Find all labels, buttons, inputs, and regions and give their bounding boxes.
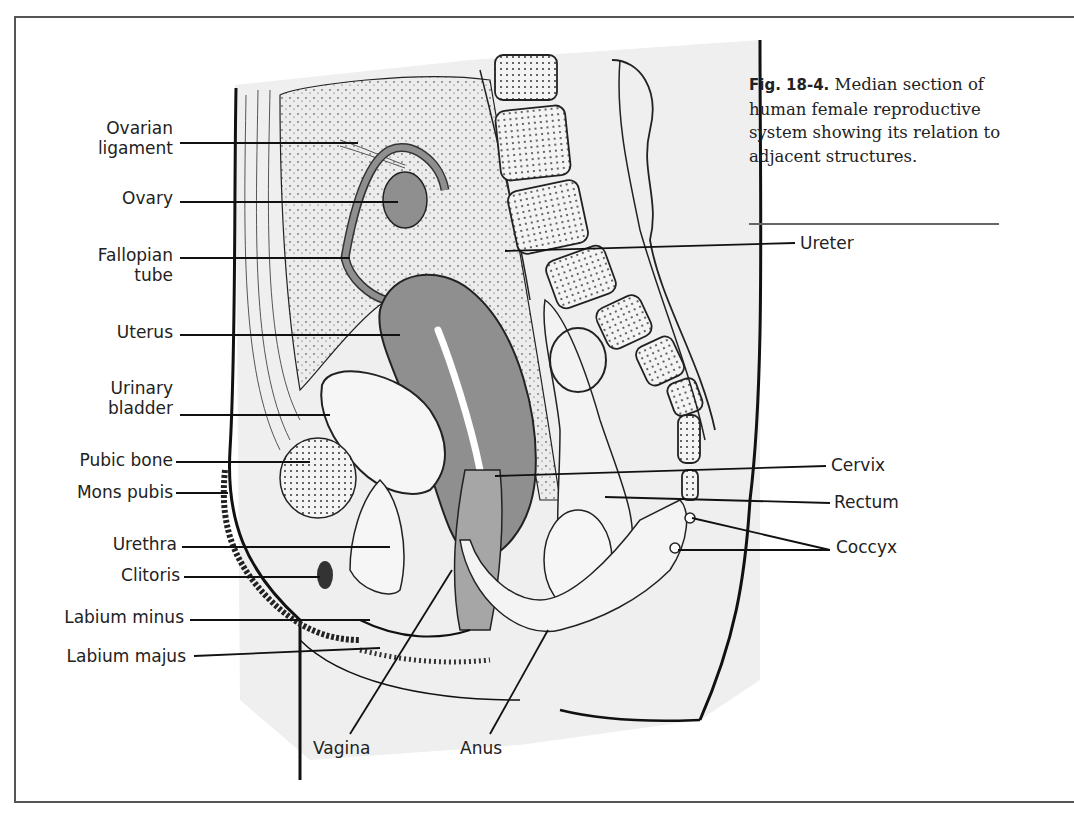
ovary-shape [383, 172, 427, 228]
label-clitoris: Clitoris [40, 565, 180, 585]
label-urethra: Urethra [40, 534, 177, 554]
label-labium-minus: Labium minus [30, 607, 184, 627]
label-fallopian-tube: Fallopian tube [60, 245, 173, 285]
pubic-bone-shape [280, 438, 356, 518]
label-vagina: Vagina [313, 738, 370, 758]
label-ovary: Ovary [60, 188, 173, 208]
label-rectum: Rectum [834, 492, 899, 512]
label-urinary-bladder-line1: Urinary [60, 378, 173, 398]
label-mons-pubis: Mons pubis [40, 482, 173, 502]
label-pubic-bone: Pubic bone [40, 450, 173, 470]
label-ovarian-ligament: Ovarian ligament [60, 118, 173, 158]
label-cervix: Cervix [831, 455, 885, 475]
label-uterus: Uterus [60, 322, 173, 342]
label-urinary-bladder: Urinary bladder [60, 378, 173, 418]
label-urinary-bladder-line2: bladder [60, 398, 173, 418]
label-ureter: Ureter [800, 233, 854, 253]
label-anus: Anus [460, 738, 502, 758]
label-coccyx: Coccyx [836, 537, 897, 557]
figure-number: Fig. 18-4. [749, 76, 829, 94]
label-labium-majus: Labium majus [30, 646, 186, 666]
label-ovarian-ligament-line1: Ovarian [60, 118, 173, 138]
label-fallopian-tube-line1: Fallopian [60, 245, 173, 265]
label-ovarian-ligament-line2: ligament [60, 138, 173, 158]
caption-divider [749, 223, 999, 225]
figure-caption: Fig. 18-4. Median section of human femal… [749, 73, 1004, 168]
label-fallopian-tube-line2: tube [60, 265, 173, 285]
